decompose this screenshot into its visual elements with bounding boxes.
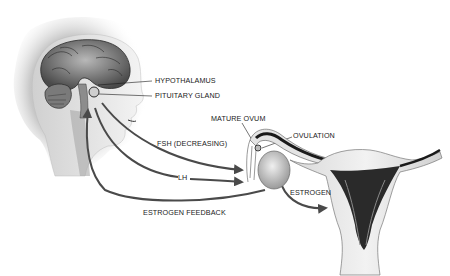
estrogen-feedback-label: ESTROGEN FEEDBACK (143, 209, 226, 216)
mature-ovum-leader-line (242, 123, 252, 140)
lh-arrow-part2 (190, 179, 242, 182)
fsh-label: FSH (DECREASING) (157, 140, 227, 147)
hypothalamus-label: HYPOTHALAMUS (155, 77, 216, 84)
ovulation-label: OVULATION (293, 132, 335, 139)
reproductive-illustration (247, 129, 442, 275)
lh-label: LH (178, 174, 187, 181)
estrogen-label: ESTROGEN (290, 189, 331, 196)
pituitary-gland-label: PITUITARY GLAND (155, 92, 220, 99)
diagram-canvas: HYPOTHALAMUS PITUITARY GLAND MATURE OVUM… (0, 0, 450, 276)
mature-ovum-label: MATURE OVUM (211, 115, 265, 122)
